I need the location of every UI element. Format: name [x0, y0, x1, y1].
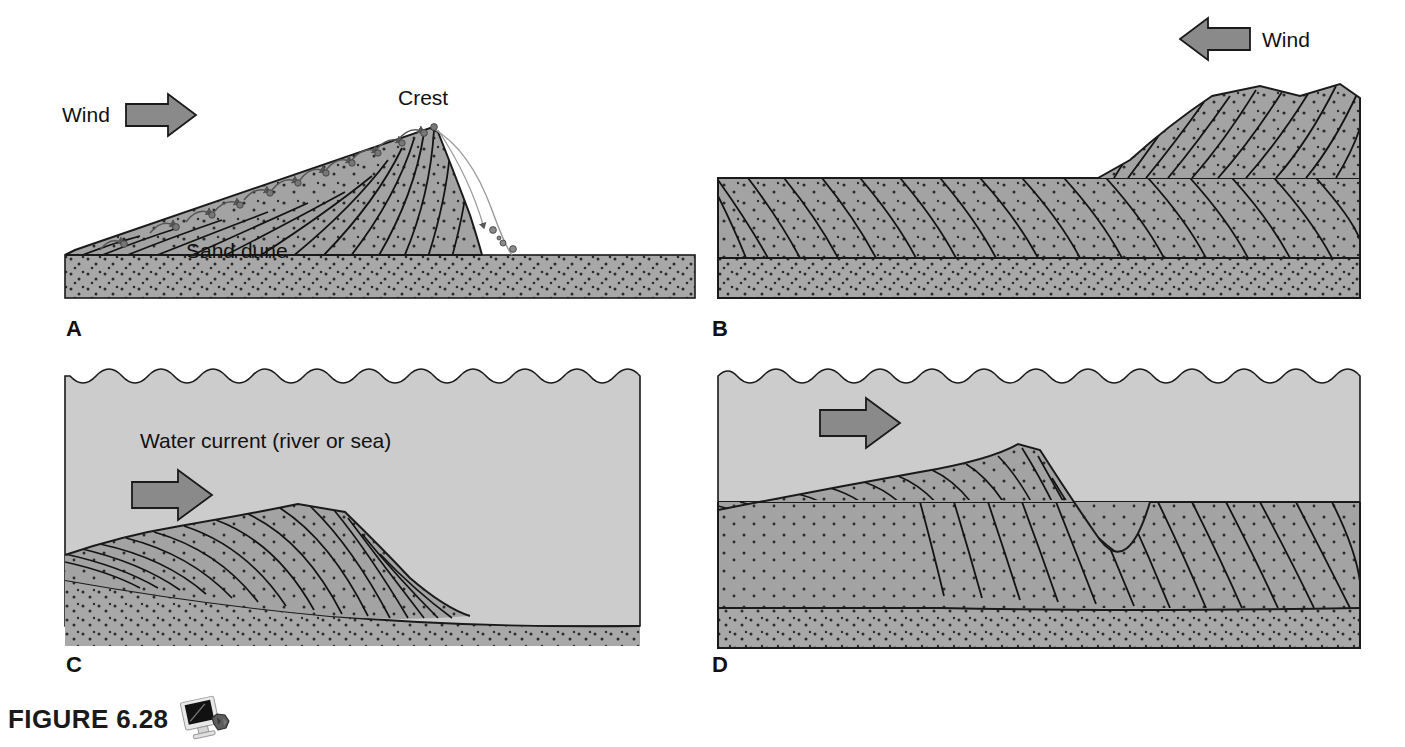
computer-monitor-rock-icon [178, 694, 234, 744]
substrate-layer-b [718, 258, 1360, 298]
panel-d: D [700, 350, 1400, 700]
substrate-layer-a [65, 255, 695, 298]
water-current-label-c: Water current (river or sea) [140, 429, 391, 452]
panel-letter-b: B [712, 316, 728, 341]
panel-a: Wind Crest Sand dune A [0, 0, 700, 350]
wind-label-b: Wind [1262, 28, 1310, 51]
panel-letter-a: A [66, 316, 82, 341]
lower-crossbed-set-d [718, 502, 1360, 610]
figure-stage: Wind Crest Sand dune A [0, 0, 1405, 747]
figure-label: FIGURE 6.28 [8, 704, 168, 735]
substrate-layer-d [718, 608, 1360, 648]
wind-label-a: Wind [62, 103, 110, 126]
wind-arrow-a [126, 94, 196, 136]
figure-caption: FIGURE 6.28 [8, 694, 234, 744]
panel-letter-d: D [712, 652, 728, 677]
sand-dune-label-a: Sand dune [186, 239, 288, 262]
panel-c: Water current (river or sea) C [0, 350, 700, 700]
crest-label-a: Crest [398, 86, 448, 109]
panel-letter-c: C [66, 652, 82, 677]
panel-b: Wind B [700, 0, 1400, 350]
lower-crossbed-set-b [718, 178, 1360, 258]
wind-arrow-b [1180, 18, 1250, 60]
